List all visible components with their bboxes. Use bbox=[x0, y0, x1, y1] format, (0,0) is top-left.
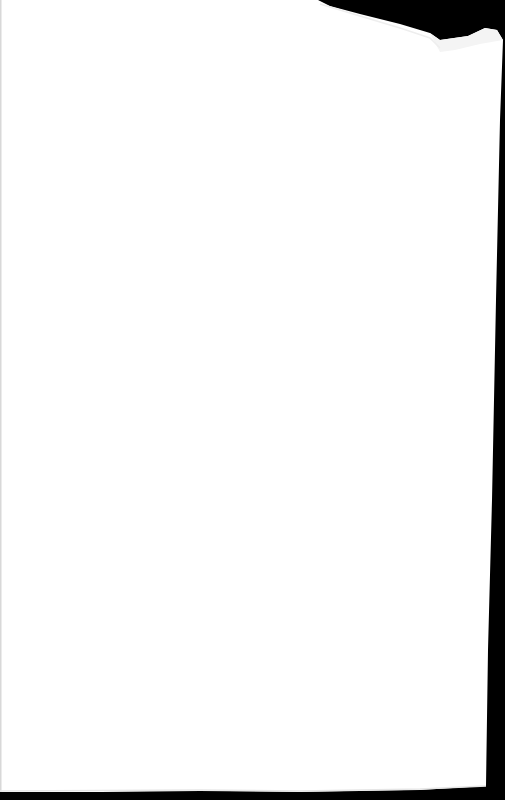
scanned-page bbox=[0, 0, 505, 800]
paper-sheet bbox=[0, 0, 503, 792]
left-edge bbox=[0, 0, 2, 792]
